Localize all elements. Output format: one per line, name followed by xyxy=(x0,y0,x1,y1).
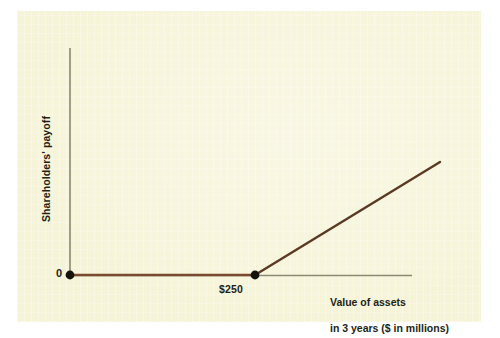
x-tick-label-250: $250 xyxy=(219,283,243,295)
origin-marker-dot xyxy=(66,271,75,280)
y-axis-label: Shareholders' payoff xyxy=(40,0,52,104)
x-axis-label-line-1: Value of assets xyxy=(330,296,449,309)
y-axis-label-text: Shareholders' payoff xyxy=(40,102,52,222)
x-axis-label: Value of assets in 3 years ($ in million… xyxy=(330,283,449,338)
kink-marker-dot xyxy=(251,271,260,280)
origin-tick-label: 0 xyxy=(56,267,62,279)
x-axis-label-line-2: in 3 years ($ in millions) xyxy=(330,322,449,335)
payoff-rising-segment xyxy=(255,162,440,275)
